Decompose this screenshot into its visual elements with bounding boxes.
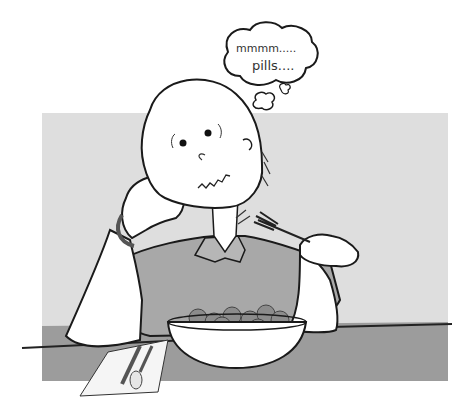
right-eye [205, 130, 212, 137]
thought-line-1: mmmm..... [236, 42, 296, 55]
left-eye [180, 140, 187, 147]
illustration: mmmm..... pills.... [0, 0, 475, 416]
spoon-bowl [130, 371, 142, 389]
head [142, 79, 262, 207]
thought-line-2: pills.... [252, 58, 294, 73]
